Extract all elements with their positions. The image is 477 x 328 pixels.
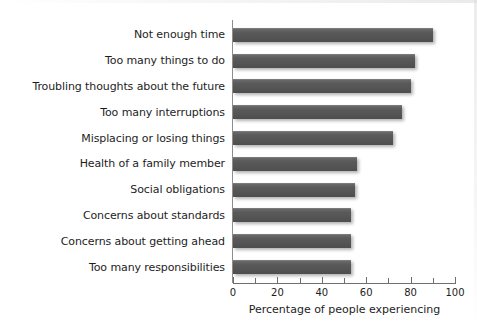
x-tick-minor	[255, 278, 256, 284]
x-tick-minor	[433, 278, 434, 284]
x-tick-label: 60	[360, 287, 373, 298]
category-label: Not enough time	[8, 22, 230, 48]
bar	[233, 208, 351, 222]
bar	[233, 28, 433, 42]
bar-row	[233, 48, 455, 74]
bar	[233, 260, 351, 274]
x-tick-label: 100	[445, 287, 464, 298]
bar	[233, 157, 357, 171]
x-tick-label: 20	[271, 287, 284, 298]
x-tick-label: 80	[404, 287, 417, 298]
bar-row	[233, 177, 455, 203]
y-axis-line	[232, 20, 233, 283]
x-tick-major	[455, 277, 456, 284]
category-label: Concerns about getting ahead	[8, 228, 230, 254]
x-tick-label: 0	[230, 287, 236, 298]
x-axis-title: Percentage of people experiencing	[233, 303, 456, 316]
x-tick-major	[233, 277, 234, 284]
category-label: Misplacing or losing things	[8, 125, 230, 151]
bar-row	[233, 125, 455, 151]
x-tick-minor	[300, 278, 301, 284]
bar-row	[233, 99, 455, 125]
x-tick-major	[366, 277, 367, 284]
bar-row	[233, 254, 455, 280]
x-tick-minor	[388, 278, 389, 284]
x-tick-major	[277, 277, 278, 284]
category-label: Too many interruptions	[8, 99, 230, 125]
bar-row	[233, 22, 455, 48]
category-label: Health of a family member	[8, 151, 230, 177]
chart-page: Not enough time Too many things to do Tr…	[0, 0, 477, 328]
category-label: Too many things to do	[8, 48, 230, 74]
category-label: Troubling thoughts about the future	[8, 74, 230, 100]
bars-container	[233, 22, 455, 280]
bar	[233, 131, 393, 145]
bar	[233, 234, 351, 248]
category-label: Too many responsibilities	[8, 254, 230, 280]
bar-row	[233, 151, 455, 177]
bar	[233, 54, 415, 68]
bar-row	[233, 203, 455, 229]
bar	[233, 79, 411, 93]
bar	[233, 105, 402, 119]
x-tick-major	[322, 277, 323, 284]
bar	[233, 183, 355, 197]
bar-row	[233, 228, 455, 254]
category-axis-labels: Not enough time Too many things to do Tr…	[8, 22, 230, 280]
bar-row	[233, 74, 455, 100]
x-tick-major	[411, 277, 412, 284]
category-label: Social obligations	[8, 177, 230, 203]
x-tick-label: 40	[315, 287, 328, 298]
category-label: Concerns about standards	[8, 203, 230, 229]
x-tick-minor	[344, 278, 345, 284]
bar-chart: Not enough time Too many things to do Tr…	[0, 0, 477, 328]
